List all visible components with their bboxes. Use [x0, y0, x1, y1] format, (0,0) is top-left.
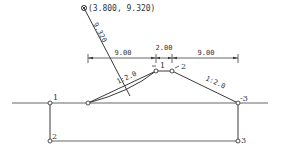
crest-right-label: 2 [181, 62, 186, 71]
circle-center-marker [81, 5, 86, 10]
left-slope-label: 1:2.0 [115, 70, 137, 86]
circle-center-label: (3.800, 9.320) [88, 4, 155, 13]
bottom-right-point [236, 139, 240, 143]
ground-left-point [48, 101, 52, 105]
right-berm-dimension: 9.00 [198, 49, 215, 57]
crest-left-point [154, 69, 158, 73]
crest-right-point [170, 69, 174, 73]
ground-right-label: -3 [240, 94, 248, 103]
crest-width-dimension: 2.00 [156, 44, 173, 52]
ground-left-label: 1 [53, 93, 58, 102]
left-toe-point [86, 101, 90, 105]
bottom-right-label: 3 [241, 136, 246, 145]
embankment-diagram: (3.800, 9.320) 9.320 9.00 2.00 9.00 1:2.… [0, 0, 286, 156]
radius-label: 9.320 [91, 21, 108, 43]
crest-left-label: 1 [160, 61, 165, 70]
foundation-box [50, 103, 238, 141]
left-berm-dimension: 9.00 [115, 49, 132, 57]
bottom-left-label: 2 [52, 132, 57, 141]
